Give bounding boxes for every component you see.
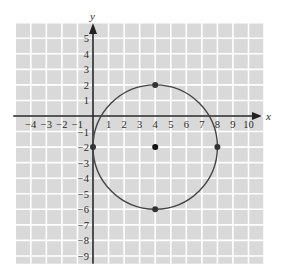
x-tick-label: 3: [137, 119, 142, 130]
center-point: [152, 144, 158, 150]
x-tick-label: 1: [106, 119, 111, 130]
coordinate-plane-chart: −4−3−2−112345678910 54321−1−2−3−4−5−6−7−…: [0, 0, 283, 277]
y-tick-label: −6: [78, 204, 89, 215]
x-tick-label: 10: [243, 119, 254, 130]
y-tick-label: −8: [78, 235, 89, 246]
y-tick-label: −9: [78, 251, 89, 262]
y-tick-label: 1: [84, 95, 89, 106]
y-axis-label: y: [89, 10, 95, 22]
x-tick-label: −2: [56, 119, 67, 130]
x-tick-label: 9: [230, 119, 235, 130]
y-tick-label: −3: [78, 158, 89, 169]
x-tick-label: 5: [168, 119, 173, 130]
circle-point: [152, 82, 158, 88]
circle-point: [214, 144, 220, 150]
circle-point: [152, 206, 158, 212]
x-axis-label: x: [265, 110, 271, 122]
x-tick-label: 2: [121, 119, 126, 130]
x-tick-label: 4: [153, 119, 159, 130]
y-tick-label: −7: [78, 220, 89, 231]
y-tick-label: −2: [78, 142, 89, 153]
x-tick-label: 7: [199, 119, 204, 130]
circle-point: [90, 144, 96, 150]
y-tick-label: 4: [84, 49, 90, 60]
x-tick-label: 8: [215, 119, 220, 130]
y-tick-label: −4: [78, 173, 90, 184]
x-tick-label: −4: [25, 119, 37, 130]
x-tick-label: −3: [41, 119, 52, 130]
x-axis-tick-labels: −4−3−2−112345678910: [25, 119, 254, 130]
y-tick-label: 3: [84, 64, 89, 75]
y-tick-label: 2: [84, 80, 89, 91]
y-tick-label: −5: [78, 189, 89, 200]
y-tick-label: 5: [84, 33, 89, 44]
x-tick-label: 6: [184, 119, 189, 130]
y-tick-label: −1: [78, 127, 89, 138]
